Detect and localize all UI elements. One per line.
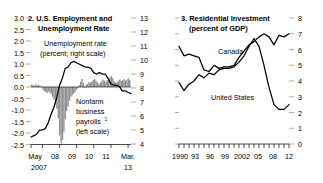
figure-container: 2. U.S. Employment and Unemployment Rate… xyxy=(0,0,323,183)
chart-panel-employment: 2. U.S. Employment and Unemployment Rate… xyxy=(0,0,162,183)
x-tick-label: 1990 xyxy=(172,152,188,161)
y-tick-left: -1.5 xyxy=(12,118,24,127)
y-tick: 6 xyxy=(298,46,302,55)
annotation-canada: Canada xyxy=(218,47,243,56)
y-tick: 0 xyxy=(298,140,302,149)
y-tick: 8 xyxy=(298,14,302,23)
annotation-payrolls-line2: business xyxy=(76,107,105,116)
panel3-right-tickmarks xyxy=(289,18,294,144)
panel2-x-tick-labels: May 08 09 10 11 Mar. 2007 13 xyxy=(28,152,135,172)
residential-investment-chart-svg: 3. Residential Investment (percent of GD… xyxy=(161,0,323,183)
y-tick-right: 4 xyxy=(140,140,144,149)
panel3-x-tick-labels: 1990 93 96 99 2002 05 08 12 xyxy=(172,152,293,161)
x-tick-label: 12 xyxy=(285,152,293,161)
panel3-x-tickmarks xyxy=(179,144,289,148)
y-tick-right: 5 xyxy=(140,126,144,135)
y-tick-left: -2.5 xyxy=(12,141,24,150)
panel3-right-axis-ticks: 8 7 6 5 4 3 2 1 0 xyxy=(298,14,302,149)
y-tick: 1 xyxy=(298,124,302,133)
x-tick-label: May xyxy=(28,152,42,161)
y-tick: 4 xyxy=(298,77,302,86)
y-tick-left: -0.5 xyxy=(12,95,24,104)
panel2-right-axis-ticks: 13 12 11 10 9 8 7 6 5 4 xyxy=(140,14,148,149)
y-tick: 3 xyxy=(298,93,302,102)
y-tick: 5 xyxy=(298,61,302,70)
y-tick-left: 2.0 xyxy=(14,37,24,46)
annotation-payrolls-line3: payrolls xyxy=(76,117,101,126)
x-tick-label: 10 xyxy=(85,152,93,161)
y-tick-left: 1.0 xyxy=(14,60,24,69)
panel3-title-line2: (percent of GDP) xyxy=(189,24,248,33)
y-tick-right: 11 xyxy=(140,42,147,51)
x-tick-label: 09 xyxy=(68,152,76,161)
panel2-title-line2: Unemployment Rate xyxy=(38,24,109,33)
x-tick-label: 2002 xyxy=(234,152,250,161)
x-tick-label: 96 xyxy=(206,152,214,161)
y-tick: 2 xyxy=(298,109,302,118)
y-tick-right: 9 xyxy=(140,70,144,79)
x-tick-label: 93 xyxy=(191,152,199,161)
y-tick-left: 1.5 xyxy=(14,49,24,58)
y-tick-right: 8 xyxy=(140,84,144,93)
panel3-left-tickmarks xyxy=(175,18,179,144)
x-sub-label: 13 xyxy=(124,163,132,172)
annotation-unemployment-line2: (percent; right scale) xyxy=(40,49,106,58)
panel2-x-tickmarks xyxy=(31,145,128,149)
chart-panel-residential-investment: 3. Residential Investment (percent of GD… xyxy=(161,0,323,183)
y-tick-right: 10 xyxy=(140,56,148,65)
panel2-right-tickmarks xyxy=(131,18,136,144)
y-tick-left: 0.0 xyxy=(14,83,24,92)
y-tick-left: 2.5 xyxy=(14,26,24,35)
panel2-left-tickmarks xyxy=(26,18,31,145)
x-tick-label: 08 xyxy=(269,152,277,161)
x-sub-label: 2007 xyxy=(31,163,47,172)
y-tick-left: 0.5 xyxy=(14,72,24,81)
x-tick-label: Mar. xyxy=(121,152,135,161)
x-tick-label: 05 xyxy=(254,152,262,161)
y-tick-right: 13 xyxy=(140,14,148,23)
y-tick-left: 3.0 xyxy=(14,14,24,23)
employment-chart-svg: 2. U.S. Employment and Unemployment Rate… xyxy=(0,0,162,183)
annotation-unemployment-line1: Unemployment rate xyxy=(44,39,107,48)
y-tick-left: -1.0 xyxy=(12,106,24,115)
x-tick-label: 11 xyxy=(102,152,109,161)
panel2-title-line1: 2. U.S. Employment and xyxy=(28,14,113,23)
x-tick-label: 99 xyxy=(221,152,229,161)
panel3-title-line1: 3. Residential Investment xyxy=(181,14,270,23)
y-tick-left: -2.0 xyxy=(12,129,24,138)
y-tick: 7 xyxy=(298,30,302,39)
footnote-marker: 1 xyxy=(105,117,108,122)
panel2-left-axis-ticks: 3.0 2.5 2.0 1.5 1.0 0.5 0.0 -0.5 -1.0 -1… xyxy=(12,14,24,150)
y-tick-right: 6 xyxy=(140,112,144,121)
x-tick-label: 08 xyxy=(51,152,59,161)
y-tick-right: 12 xyxy=(140,28,148,37)
annotation-united-states: United States xyxy=(211,93,255,102)
annotation-payrolls-line1: Nonfarm xyxy=(76,97,104,106)
y-tick-right: 7 xyxy=(140,98,144,107)
annotation-payrolls-line4: (left scale) xyxy=(76,127,109,136)
